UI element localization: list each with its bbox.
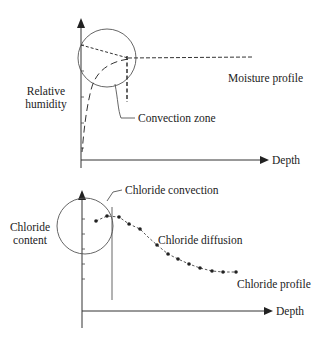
top-dashed-line-upper — [81, 45, 128, 58]
diagram-canvas: Relative humidity Depth Moisture profile… — [0, 0, 317, 342]
bottom-panel: Chloride content Chloride convection Chl… — [10, 184, 311, 328]
bottom-x-axis-arrow-icon — [264, 307, 273, 315]
chloride-convection-label: Chloride convection — [125, 184, 219, 196]
convection-zone-label: Convection zone — [138, 112, 216, 124]
top-y-label-line1: Relative — [27, 85, 65, 97]
bottom-y-label-line2: content — [13, 234, 48, 246]
chloride-profile-label: Chloride profile — [237, 278, 311, 291]
bottom-x-label: Depth — [276, 305, 304, 318]
top-y-label-line2: humidity — [25, 98, 67, 111]
chloride-convection-leader — [107, 190, 122, 201]
bottom-y-label-line1: Chloride — [10, 221, 50, 233]
bottom-convection-circle — [57, 198, 113, 254]
chloride-diffusion-label: Chloride diffusion — [158, 234, 243, 246]
top-panel: Relative humidity Depth Moisture profile… — [25, 18, 303, 168]
top-x-label: Depth — [272, 154, 300, 167]
top-y-axis-arrow-icon — [77, 18, 85, 28]
moisture-profile-line — [128, 57, 252, 58]
convection-zone-leader — [115, 84, 135, 118]
moisture-profile-label: Moisture profile — [228, 72, 303, 85]
top-dashed-curve-lower — [82, 59, 128, 152]
top-x-axis-arrow-icon — [260, 156, 269, 164]
